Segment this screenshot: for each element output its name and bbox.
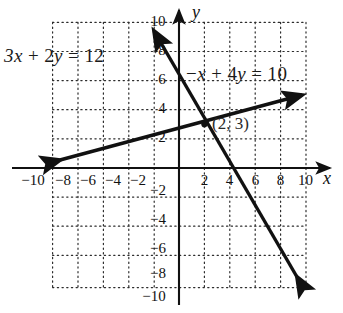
y-axis-label: y: [192, 2, 200, 23]
intersection-point-marker: [201, 121, 207, 127]
equation-right-coef-y: 4: [227, 63, 237, 84]
equation-label-right: −x + 4y = 10: [186, 63, 287, 85]
x-tick-label: 4: [221, 172, 238, 189]
x-tick-label: −6: [76, 172, 100, 189]
equation-left-var-y: y: [54, 45, 63, 66]
x-tick-label: 10: [294, 172, 317, 189]
x-tick-label: −4: [101, 172, 125, 189]
x-tick-label: −10: [16, 172, 50, 189]
equation-right-equals: =: [251, 63, 262, 84]
y-tick-label: 2: [152, 129, 172, 146]
equation-right-var-x: x: [197, 63, 206, 84]
y-tick-label: 8: [152, 42, 172, 59]
intersection-point-label: (2, 3): [212, 114, 249, 134]
y-tick-label: 6: [152, 71, 172, 88]
y-tick-label: −6: [144, 240, 172, 257]
y-tick-label: −8: [144, 265, 172, 282]
equation-label-left: 3x + 2y = 12: [4, 45, 104, 67]
equation-left-rhs: 12: [84, 45, 104, 66]
y-tick-label: −4: [144, 211, 172, 228]
x-tick-label: −8: [51, 172, 75, 189]
line-minus-x-plus-4y-equals-10: [60, 95, 302, 160]
equation-left-plus: +: [28, 45, 39, 66]
equation-left-coef-y: 2: [44, 45, 54, 66]
y-tick-label: 10: [144, 13, 172, 30]
graph-figure: 3x + 2y = 12 −x + 4y = 10 (2, 3) y x −10…: [0, 0, 343, 313]
equation-right-plus: +: [211, 63, 222, 84]
equation-left-coef-x: 3: [4, 45, 14, 66]
equation-right-coef-x: −: [186, 63, 197, 84]
x-axis-label: x: [323, 168, 331, 189]
equation-left-equals: =: [68, 45, 79, 66]
equation-right-rhs: 10: [268, 63, 288, 84]
x-tick-label: 8: [272, 172, 289, 189]
y-tick-label: 4: [152, 100, 172, 117]
x-tick-label: 2: [196, 172, 213, 189]
y-tick-label: −2: [144, 182, 172, 199]
equation-right-var-y: y: [237, 63, 246, 84]
equation-left-var-x: x: [14, 45, 23, 66]
x-tick-label: 6: [247, 172, 264, 189]
y-tick-label: −10: [136, 288, 172, 305]
